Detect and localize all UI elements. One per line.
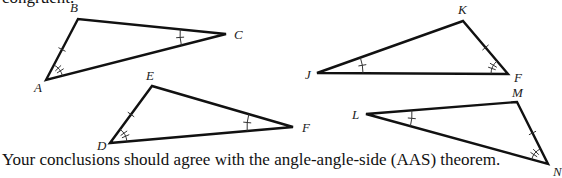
geometry-figure: congruent. ABCDEFJKFLMN Your conclusions…	[0, 0, 562, 178]
triangle-outline	[317, 21, 508, 74]
vertex-label-l: L	[351, 107, 359, 122]
angle-tick	[176, 37, 184, 38]
angle-tick	[121, 131, 128, 136]
vertex-label-f: F	[301, 120, 311, 135]
triangle-jkf: JKF	[305, 2, 523, 85]
triangle-outline	[46, 19, 226, 80]
vertex-label-b: B	[70, 0, 78, 15]
angle-tick	[57, 69, 64, 73]
triangle-abc: ABC	[33, 0, 243, 95]
vertex-label-k: K	[457, 2, 468, 17]
angle-arc	[491, 61, 497, 74]
angle-tick	[243, 122, 251, 123]
vertex-label-m: M	[511, 85, 524, 100]
triangle-outline	[110, 86, 293, 143]
angle-tick	[408, 118, 416, 119]
angle-tick	[531, 152, 538, 156]
triangle-def: DEF	[96, 68, 311, 153]
caption-text: Your conclusions should agree with the a…	[2, 150, 500, 170]
vertex-label-n: N	[552, 164, 562, 178]
vertex-label-c: C	[234, 27, 243, 42]
vertex-label-a: A	[33, 80, 42, 95]
angle-tick	[358, 65, 366, 66]
vertex-label-e: E	[145, 68, 154, 83]
vertex-label-f: F	[513, 70, 523, 85]
angle-tick	[490, 63, 497, 67]
vertex-label-j: J	[305, 67, 312, 82]
